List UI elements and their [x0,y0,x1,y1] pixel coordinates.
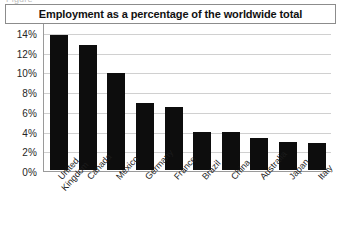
y-axis-tick: 2% [22,147,37,158]
y-axis: 16%14%12%10%8%6%4%2%0% [0,14,40,172]
bar [79,45,97,170]
bar-slot [274,14,303,170]
y-axis-tick: 4% [22,127,37,138]
x-axis-slot: Germany [130,173,159,228]
y-axis-tick: 6% [22,107,37,118]
x-axis-slot: Italy [303,173,332,228]
bar-series [45,14,331,170]
chart-title-box: Employment as a percentage of the worldw… [5,4,336,24]
x-axis-slot: France [159,173,188,228]
x-axis-slot: Brazil [188,173,217,228]
x-axis-slot: Mexico [102,173,131,228]
bar-slot [159,14,188,170]
y-axis-tick: 8% [22,88,37,99]
bar [50,35,68,170]
x-axis-slot: UnitedKingdom [44,173,73,228]
bar-slot [217,14,246,170]
plot-area [43,14,331,172]
bar-slot [245,14,274,170]
bar-slot [45,14,74,170]
y-axis-tick: 14% [17,28,37,39]
chart-title: Employment as a percentage of the worldw… [39,8,302,20]
x-axis-slot: Japan [274,173,303,228]
y-axis-tick: 12% [17,48,37,59]
y-axis-tick: 0% [22,167,37,178]
bar-slot [131,14,160,170]
bar-slot [188,14,217,170]
x-axis: UnitedKingdomCanadaMexicoGermanyFranceBr… [44,173,332,228]
bar-slot [302,14,331,170]
x-axis-slot: Canada [73,173,102,228]
y-axis-tick: 10% [17,68,37,79]
x-axis-slot: China [217,173,246,228]
bar-slot [74,14,103,170]
bar-chart: Figure 16%14%12%10%8%6%4%2%0% Employment… [0,0,338,228]
bar-slot [102,14,131,170]
x-axis-slot: Australia [246,173,275,228]
